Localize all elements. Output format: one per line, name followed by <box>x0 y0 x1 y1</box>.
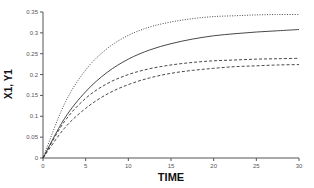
series-line-solid <box>43 30 299 158</box>
x-tick-label: 30 <box>296 163 303 169</box>
y-axis-title: X1, Y1 <box>3 69 14 99</box>
series-line-dashed-lower <box>43 65 299 158</box>
x-tick-label: 5 <box>84 163 88 169</box>
y-tick-label: 0 <box>35 155 39 161</box>
y-tick-label: 0.2 <box>30 72 39 78</box>
x-tick-label: 25 <box>253 163 260 169</box>
x-tick-label: 20 <box>210 163 217 169</box>
x-tick-label: 10 <box>125 163 132 169</box>
series-line-dotted <box>43 14 299 158</box>
y-tick-label: 0.15 <box>26 92 38 98</box>
y-tick-label: 0.3 <box>30 30 39 36</box>
series-line-dashed-upper <box>43 58 299 158</box>
line-chart: 00.050.10.150.20.250.30.35051015202530 T… <box>0 0 314 188</box>
x-axis-title: TIME <box>158 171 184 183</box>
x-tick-label: 15 <box>168 163 175 169</box>
series-group <box>43 14 299 158</box>
y-tick-label: 0.05 <box>26 134 38 140</box>
axes: 00.050.10.150.20.250.30.35051015202530 <box>26 9 303 169</box>
y-tick-label: 0.25 <box>26 51 38 57</box>
x-tick-label: 0 <box>41 163 45 169</box>
y-tick-label: 0.35 <box>26 9 38 15</box>
y-tick-label: 0.1 <box>30 113 39 119</box>
